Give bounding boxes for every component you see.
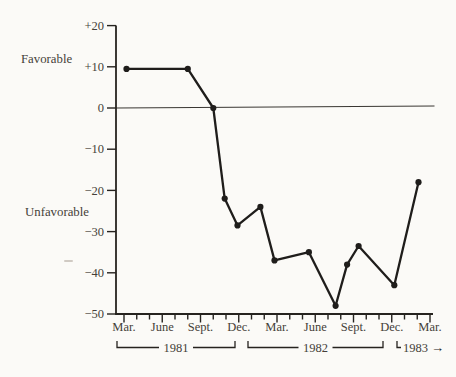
favorability-line-chart: +20+100−10−20−30−40−50Mar.JuneSept.Dec.M… xyxy=(0,0,456,377)
data-point xyxy=(210,105,216,111)
data-point xyxy=(222,196,228,202)
y-tick-label: +10 xyxy=(84,60,104,74)
data-point xyxy=(344,262,350,268)
zero-line xyxy=(116,106,435,108)
y-tick-label: 0 xyxy=(98,101,104,115)
y-tick-label: −10 xyxy=(84,142,104,156)
x-quarter-label: Sept. xyxy=(188,320,213,334)
x-quarter-label: Sept. xyxy=(341,320,366,334)
y-tick-label: −30 xyxy=(84,225,104,239)
chart-figure: +20+100−10−20−30−40−50Mar.JuneSept.Dec.M… xyxy=(0,0,456,377)
data-point xyxy=(306,249,312,255)
y-tick-label: −40 xyxy=(84,266,104,280)
data-point xyxy=(234,222,240,228)
data-point xyxy=(391,282,397,288)
favorable-label: Favorable xyxy=(21,52,72,66)
year-label: 1981 xyxy=(164,341,189,355)
data-point xyxy=(123,66,129,72)
y-tick-label: −20 xyxy=(84,184,104,198)
y-tick-label: +20 xyxy=(84,19,104,33)
x-quarter-label: Mar. xyxy=(112,320,135,334)
data-point xyxy=(257,204,263,210)
x-quarter-label: Mar. xyxy=(418,320,441,334)
data-point xyxy=(333,303,339,309)
data-point xyxy=(185,66,191,72)
data-point xyxy=(271,257,277,263)
x-quarter-label: Dec. xyxy=(227,320,250,334)
x-quarter-label: Mar. xyxy=(265,320,288,334)
data-line xyxy=(127,69,419,306)
print-artifact xyxy=(64,260,73,262)
x-quarter-label: Dec. xyxy=(380,320,403,334)
year-label: 1982 xyxy=(303,341,328,355)
y-tick-label: −50 xyxy=(84,307,104,321)
year-bracket-start xyxy=(397,341,401,348)
data-point xyxy=(415,179,421,185)
data-point xyxy=(356,243,362,249)
x-quarter-label: June xyxy=(151,320,174,334)
x-quarter-label: June xyxy=(304,320,327,334)
unfavorable-label: Unfavorable xyxy=(25,205,89,219)
year-label: 1983 xyxy=(403,341,428,355)
year-arrow-icon: → xyxy=(431,340,444,355)
